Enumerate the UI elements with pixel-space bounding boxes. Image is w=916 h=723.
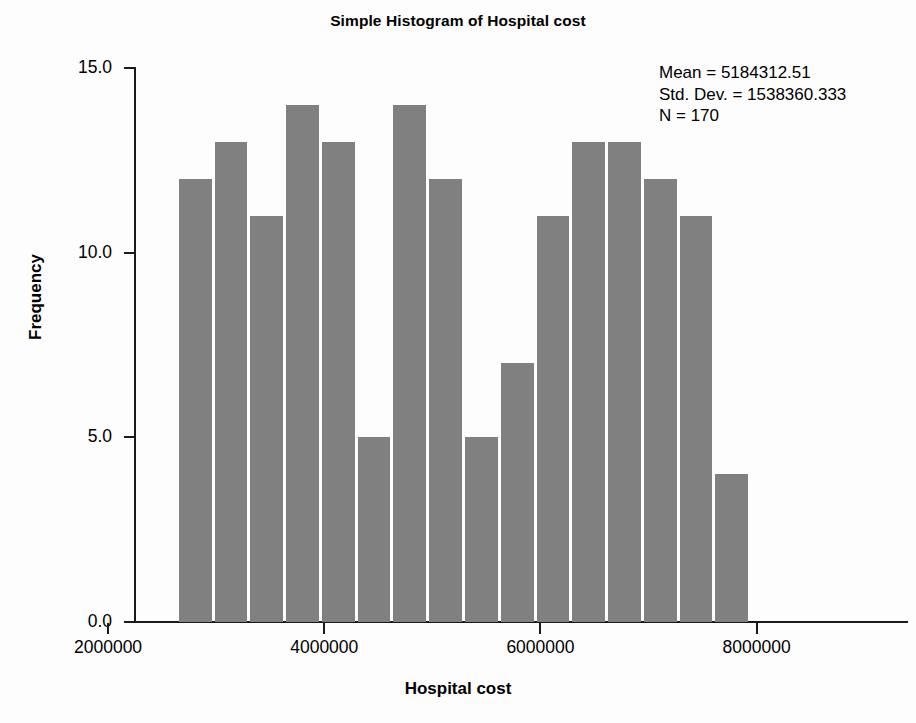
x-axis-tick-label: 4000000 <box>290 637 358 658</box>
x-axis-tick-label: 2000000 <box>74 637 142 658</box>
histogram-bar <box>286 105 319 622</box>
x-axis-tick-label: 6000000 <box>506 637 574 658</box>
histogram-figure: Simple Histogram of Hospital cost Mean =… <box>0 0 916 723</box>
x-axis-tick <box>323 623 325 634</box>
histogram-bar <box>179 179 212 622</box>
histogram-bar <box>215 142 248 622</box>
histogram-bar <box>250 216 283 622</box>
histogram-bar <box>322 142 355 622</box>
histogram-bar <box>715 474 748 622</box>
histogram-bar <box>608 142 641 622</box>
histogram-bar <box>465 437 498 622</box>
x-axis-tick-label: 8000000 <box>723 637 791 658</box>
x-axis-tick <box>107 623 109 634</box>
bars-layer <box>0 0 916 622</box>
histogram-bar <box>393 105 426 622</box>
histogram-bar <box>644 179 677 622</box>
x-axis-tick <box>756 623 758 634</box>
histogram-bar <box>537 216 570 622</box>
histogram-bar <box>572 142 605 622</box>
histogram-bar <box>680 216 713 622</box>
x-axis-title: Hospital cost <box>0 679 916 699</box>
histogram-bar <box>501 363 534 622</box>
histogram-bar <box>429 179 462 622</box>
x-axis-tick <box>539 623 541 634</box>
histogram-bar <box>358 437 391 622</box>
